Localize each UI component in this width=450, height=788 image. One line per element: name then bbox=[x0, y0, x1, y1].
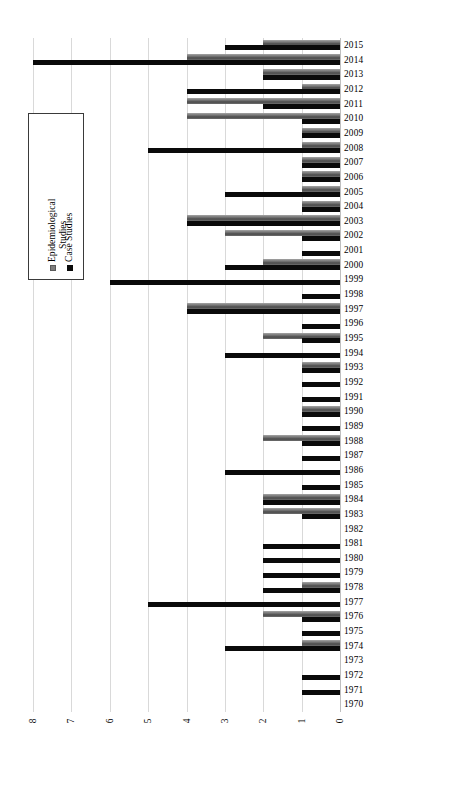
year-axis-labels: 2015201420132012201120102009200820072006… bbox=[344, 38, 388, 712]
year-label-2008: 2008 bbox=[344, 141, 388, 156]
bar-case-1995 bbox=[302, 338, 340, 343]
year-label-1974: 1974 bbox=[344, 639, 388, 654]
bar-case-2005 bbox=[225, 192, 340, 197]
bar-case-1984 bbox=[263, 500, 340, 505]
bar-case-1990 bbox=[302, 412, 340, 417]
chart-row bbox=[33, 53, 340, 68]
chart-row bbox=[33, 375, 340, 390]
bar-case-1978 bbox=[263, 588, 340, 593]
year-label-1996: 1996 bbox=[344, 316, 388, 331]
year-label-2005: 2005 bbox=[344, 185, 388, 200]
chart-row bbox=[33, 331, 340, 346]
x-tick-4: 4 bbox=[182, 708, 192, 734]
bar-case-1985 bbox=[302, 485, 340, 490]
year-label-2009: 2009 bbox=[344, 126, 388, 141]
chart-row bbox=[33, 360, 340, 375]
bar-case-1994 bbox=[225, 353, 340, 358]
x-tick-6: 6 bbox=[105, 708, 115, 734]
bar-case-2010 bbox=[302, 119, 340, 124]
year-label-1970: 1970 bbox=[344, 697, 388, 712]
chart-row bbox=[33, 683, 340, 698]
bar-case-1998 bbox=[302, 294, 340, 299]
bar-case-1989 bbox=[302, 426, 340, 431]
bar-case-2009 bbox=[302, 133, 340, 138]
year-label-1995: 1995 bbox=[344, 331, 388, 346]
year-label-2011: 2011 bbox=[344, 97, 388, 112]
chart-row bbox=[33, 82, 340, 97]
bar-case-2013 bbox=[263, 75, 340, 80]
year-label-1983: 1983 bbox=[344, 507, 388, 522]
bar-case-1971 bbox=[302, 690, 340, 695]
bar-case-1992 bbox=[302, 382, 340, 387]
year-label-1973: 1973 bbox=[344, 653, 388, 668]
chart-row bbox=[33, 316, 340, 331]
gridline-0 bbox=[340, 38, 341, 712]
chart-row bbox=[33, 492, 340, 507]
chart-row bbox=[33, 38, 340, 53]
year-label-1988: 1988 bbox=[344, 434, 388, 449]
year-label-1997: 1997 bbox=[344, 302, 388, 317]
bar-case-1972 bbox=[302, 675, 340, 680]
year-label-2013: 2013 bbox=[344, 67, 388, 82]
legend-item-epidemiological-studies: Epidemiological Studies bbox=[46, 199, 68, 271]
year-label-1998: 1998 bbox=[344, 287, 388, 302]
chart-row bbox=[33, 419, 340, 434]
bar-case-2007 bbox=[302, 163, 340, 168]
year-label-1994: 1994 bbox=[344, 346, 388, 361]
year-label-1982: 1982 bbox=[344, 522, 388, 537]
chart-row bbox=[33, 287, 340, 302]
legend-label-epi-line2: Studies bbox=[57, 199, 68, 271]
bar-case-2000 bbox=[225, 265, 340, 270]
year-label-1979: 1979 bbox=[344, 565, 388, 580]
x-tick-2: 2 bbox=[258, 708, 268, 734]
chart-row bbox=[33, 522, 340, 537]
year-label-2010: 2010 bbox=[344, 111, 388, 126]
bar-case-1979 bbox=[263, 573, 340, 578]
year-label-2006: 2006 bbox=[344, 170, 388, 185]
year-label-2014: 2014 bbox=[344, 53, 388, 68]
x-tick-8: 8 bbox=[28, 708, 38, 734]
chart-row bbox=[33, 580, 340, 595]
legend-swatch-epi-icon bbox=[50, 265, 56, 271]
value-axis-labels: 876543210 bbox=[33, 712, 340, 752]
year-label-1990: 1990 bbox=[344, 404, 388, 419]
bar-case-1987 bbox=[302, 456, 340, 461]
bar-case-1993 bbox=[302, 368, 340, 373]
year-label-2015: 2015 bbox=[344, 38, 388, 53]
year-label-2003: 2003 bbox=[344, 214, 388, 229]
year-label-1992: 1992 bbox=[344, 375, 388, 390]
year-label-1980: 1980 bbox=[344, 551, 388, 566]
chart-row bbox=[33, 639, 340, 654]
chart-row bbox=[33, 507, 340, 522]
bar-case-1976 bbox=[302, 617, 340, 622]
chart-row bbox=[33, 448, 340, 463]
chart-row bbox=[33, 668, 340, 683]
bar-case-1980 bbox=[263, 558, 340, 563]
bar-case-1981 bbox=[263, 544, 340, 549]
bar-case-1996 bbox=[302, 324, 340, 329]
bar-case-2014 bbox=[33, 60, 340, 65]
year-label-1991: 1991 bbox=[344, 390, 388, 405]
year-label-2001: 2001 bbox=[344, 243, 388, 258]
chart-row bbox=[33, 653, 340, 668]
chart-row bbox=[33, 609, 340, 624]
bar-case-1997 bbox=[187, 309, 341, 314]
year-label-1999: 1999 bbox=[344, 272, 388, 287]
bar-case-2004 bbox=[302, 207, 340, 212]
chart-row bbox=[33, 404, 340, 419]
year-label-1972: 1972 bbox=[344, 668, 388, 683]
bar-case-2012 bbox=[187, 89, 341, 94]
year-label-2012: 2012 bbox=[344, 82, 388, 97]
figure-container: 2015201420132012201120102009200820072006… bbox=[0, 0, 450, 788]
year-label-2004: 2004 bbox=[344, 199, 388, 214]
year-label-1984: 1984 bbox=[344, 492, 388, 507]
chart-row bbox=[33, 67, 340, 82]
chart-row bbox=[33, 624, 340, 639]
bar-case-1983 bbox=[302, 514, 340, 519]
bar-case-1999 bbox=[110, 280, 340, 285]
legend-label-epi: Epidemiological bbox=[46, 199, 57, 262]
chart-row bbox=[33, 434, 340, 449]
bar-case-2011 bbox=[263, 104, 340, 109]
bar-case-1975 bbox=[302, 631, 340, 636]
chart-row bbox=[33, 302, 340, 317]
